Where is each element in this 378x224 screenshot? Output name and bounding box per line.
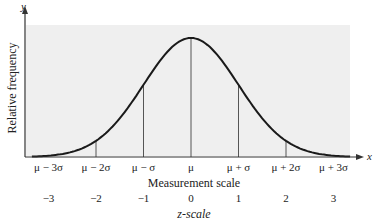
measurement-tick: μ bbox=[188, 161, 194, 173]
z-tick: −1 bbox=[138, 192, 150, 204]
measurement-tick: μ − σ bbox=[132, 161, 156, 173]
plot-area bbox=[26, 25, 350, 156]
measurement-tick: μ + 2σ bbox=[271, 161, 300, 173]
z-tick: 1 bbox=[236, 192, 242, 204]
measurement-scale-label: Measurement scale bbox=[148, 176, 240, 191]
z-tick: 0 bbox=[188, 192, 194, 204]
measurement-tick: μ + 3σ bbox=[319, 161, 348, 173]
y-axis-label: Relative frequency bbox=[5, 43, 20, 134]
measurement-tick: μ − 2σ bbox=[81, 161, 110, 173]
x-axis-symbol: x bbox=[367, 150, 372, 162]
x-axis-arrow-icon bbox=[356, 154, 364, 160]
z-tick: 2 bbox=[283, 192, 289, 204]
z-tick: −2 bbox=[90, 192, 102, 204]
z-scale-label: z-scale bbox=[177, 207, 210, 222]
measurement-tick: μ − 3σ bbox=[34, 161, 63, 173]
z-tick: −3 bbox=[43, 192, 55, 204]
z-tick: 3 bbox=[331, 192, 337, 204]
measurement-tick: μ + σ bbox=[227, 161, 251, 173]
y-axis-symbol: y bbox=[21, 0, 26, 12]
